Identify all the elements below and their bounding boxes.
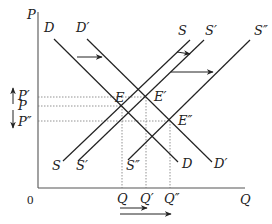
label-q-prime: Q′ xyxy=(140,191,154,206)
label-p: P xyxy=(17,98,27,113)
y-axis-label: P xyxy=(26,7,36,22)
label-p-double-prime: P″ xyxy=(17,114,32,129)
supply-shift-arrow-small xyxy=(177,52,190,54)
label-s-top: S xyxy=(178,23,187,38)
label-q: Q xyxy=(117,191,128,206)
supply-curve-s-prime xyxy=(78,40,204,161)
origin-label: 0 xyxy=(27,192,34,207)
label-d-bottom: D xyxy=(181,156,193,171)
label-e-double-prime: E″ xyxy=(177,113,192,128)
supply-demand-diagram: P Q 0 D D′ D D′ S S′ S″ S S′ S″ E E′ E″ … xyxy=(0,0,272,224)
label-s-double-prime-bottom: S″ xyxy=(126,158,140,173)
demand-curve-d-prime xyxy=(87,39,212,162)
label-s-bottom: S xyxy=(52,158,61,173)
label-s-prime-bottom: S′ xyxy=(76,158,88,173)
label-e-prime: E′ xyxy=(153,89,166,104)
label-e: E xyxy=(114,90,125,105)
label-q-double-prime: Q″ xyxy=(164,191,180,206)
label-d-prime-bottom: D′ xyxy=(213,156,227,171)
supply-curve-s xyxy=(63,40,190,161)
label-s-prime-top: S′ xyxy=(205,23,217,38)
label-s-double-prime-top: S″ xyxy=(254,23,268,38)
label-d-prime-top: D′ xyxy=(75,20,89,35)
x-axis-label: Q xyxy=(240,192,251,207)
label-d-top: D xyxy=(43,20,55,35)
